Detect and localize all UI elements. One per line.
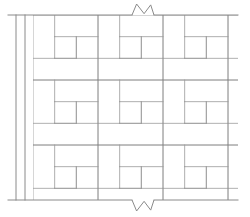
basketweave-field [33, 15, 250, 210]
bottom-break-symbol [132, 200, 154, 211]
top-break-symbol [132, 4, 154, 15]
drawing-canvas [0, 0, 250, 217]
tile-pattern-drawing [0, 0, 250, 217]
